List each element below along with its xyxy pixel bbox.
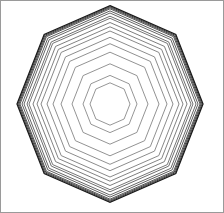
octagon-ring bbox=[41, 31, 179, 177]
octagon-ring bbox=[37, 27, 183, 181]
octagon-ring bbox=[24, 13, 196, 195]
octagon-ring bbox=[61, 52, 159, 156]
octagon-ring bbox=[22, 11, 198, 197]
octagon-ring bbox=[90, 83, 130, 125]
octagon-ring bbox=[27, 16, 193, 192]
octagon-ring bbox=[47, 37, 173, 170]
octagon-ring bbox=[83, 75, 137, 132]
nested-octagons-diagram bbox=[0, 0, 224, 213]
octagon-ring bbox=[33, 23, 187, 186]
octagon-ring bbox=[53, 44, 167, 165]
